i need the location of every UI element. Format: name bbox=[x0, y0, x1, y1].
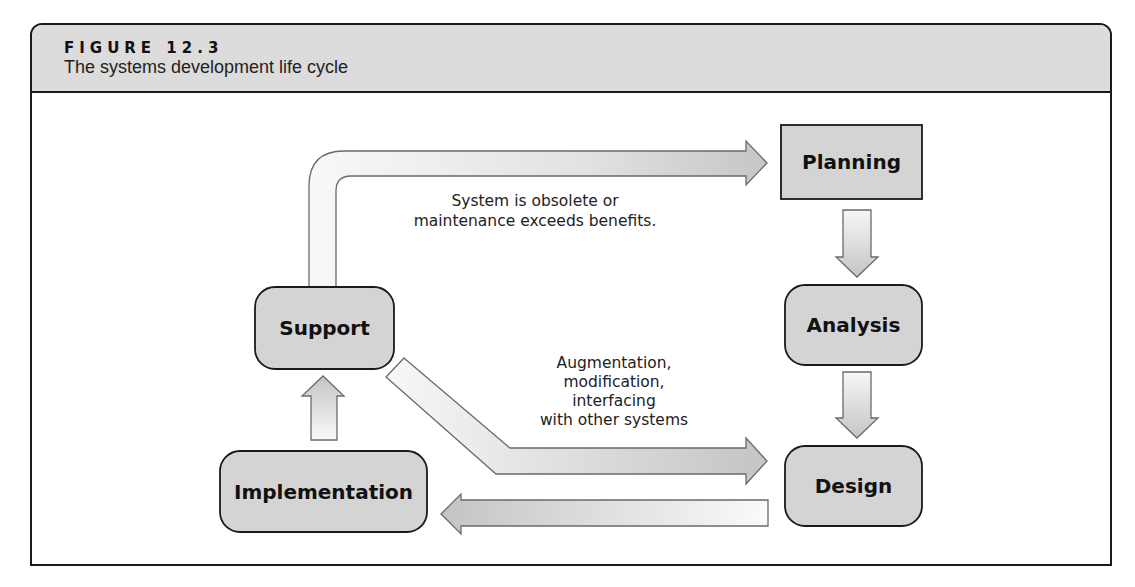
arrow-planning-to-analysis bbox=[836, 210, 878, 277]
node-design: Design bbox=[785, 446, 922, 526]
annotation-augmentation-line-4: with other systems bbox=[540, 411, 688, 429]
node-implementation-label: Implementation bbox=[234, 480, 413, 504]
annotation-obsolete-line-1: System is obsolete or bbox=[451, 192, 619, 210]
arrow-design-to-implementation bbox=[441, 494, 768, 534]
node-planning: Planning bbox=[781, 125, 922, 199]
node-support-label: Support bbox=[279, 316, 370, 340]
node-analysis: Analysis bbox=[785, 285, 922, 365]
node-planning-label: Planning bbox=[802, 150, 901, 174]
node-design-label: Design bbox=[815, 474, 892, 498]
node-support: Support bbox=[255, 287, 394, 369]
sdlc-diagram: Planning Analysis Design Support Impleme… bbox=[0, 0, 1135, 587]
annotation-obsolete-line-2: maintenance exceeds benefits. bbox=[414, 212, 657, 230]
annotation-obsolete: System is obsolete or maintenance exceed… bbox=[414, 192, 657, 230]
node-implementation: Implementation bbox=[220, 451, 427, 532]
node-analysis-label: Analysis bbox=[807, 313, 901, 337]
arrow-implementation-to-support bbox=[302, 376, 344, 440]
annotation-augmentation-line-1: Augmentation, bbox=[557, 354, 672, 372]
annotation-augmentation-line-2: modification, bbox=[563, 373, 664, 391]
annotation-augmentation-line-3: interfacing bbox=[572, 392, 656, 410]
arrow-analysis-to-design bbox=[836, 372, 878, 438]
annotation-augmentation: Augmentation, modification, interfacing … bbox=[540, 354, 688, 429]
